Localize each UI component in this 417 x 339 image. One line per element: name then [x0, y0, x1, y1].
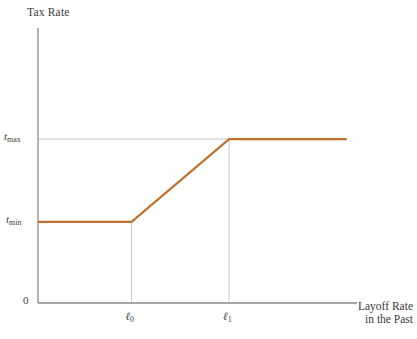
y-tick-tmin-sub: min: [9, 218, 21, 227]
tax-schedule-curve: [38, 139, 347, 222]
origin-label: 0: [23, 294, 29, 306]
chart-plot-area: [0, 0, 417, 339]
y-tick-label-tmin: tmin: [6, 213, 21, 228]
x-tick-label-l0: ℓ0: [125, 310, 134, 325]
x-axis-title-line1: Layoff Rate: [358, 300, 413, 312]
x-axis-title: Layoff Rate in the Past: [358, 300, 413, 326]
x-tick-l1-sub: 1: [228, 315, 232, 324]
x-tick-l0-sub: 0: [130, 315, 134, 324]
tax-rate-chart-figure: Tax Rate Layoff Rate in the Past tmax tm…: [0, 0, 417, 339]
x-axis-title-line2: in the Past: [358, 313, 413, 326]
x-tick-label-l1: ℓ1: [223, 310, 232, 325]
y-axis-title: Tax Rate: [27, 6, 70, 19]
y-tick-tmax-sub: max: [7, 135, 21, 144]
y-tick-label-tmax: tmax: [4, 130, 21, 145]
